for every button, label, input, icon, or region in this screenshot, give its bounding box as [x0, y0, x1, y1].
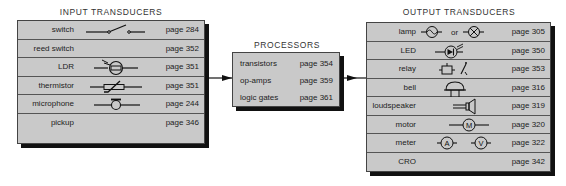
list-item: bell page 316	[367, 79, 550, 98]
list-item: CRO page 342	[367, 153, 550, 172]
item-label: pickup	[18, 114, 74, 132]
led-icon	[435, 42, 480, 60]
list-item: thermistor page 351	[18, 77, 204, 96]
page-reference: page 244	[166, 95, 199, 113]
list-item: op-amps page 359	[233, 72, 339, 89]
lamp-icon: or	[421, 23, 501, 41]
input-transducers-title: INPUT TRANSDUCERS	[17, 7, 205, 17]
page-reference: page 351	[166, 58, 199, 76]
page-reference: page 353	[512, 60, 545, 78]
processors-title: PROCESSORS	[232, 40, 342, 50]
thermistor-icon	[90, 77, 145, 95]
ldr-icon	[94, 58, 144, 76]
output-transducers-title: OUTPUT TRANSDUCERS	[366, 7, 552, 17]
item-label: transistors	[240, 55, 277, 72]
page-reference: page 354	[300, 55, 333, 72]
arrow-input-to-processors	[208, 74, 234, 82]
bell-icon	[443, 79, 473, 97]
motor-icon: M	[449, 116, 494, 134]
processors-box: transistors page 354 op-amps page 359 lo…	[232, 52, 340, 107]
page-reference: page 359	[300, 72, 333, 89]
page-reference: page 342	[512, 153, 545, 171]
page-reference: page 319	[512, 97, 545, 115]
item-label: lamp	[367, 23, 416, 41]
item-label: relay	[367, 60, 416, 78]
list-item: reed switch page 352	[18, 40, 204, 59]
item-label: microphone	[18, 95, 74, 113]
page-reference: page 351	[166, 77, 199, 95]
item-label: thermistor	[18, 77, 74, 95]
input-transducers-box: switch page 284 reed switch page 352 LDR…	[17, 20, 205, 144]
item-label: motor	[367, 116, 416, 134]
list-item: meter A V page 322	[367, 134, 550, 153]
arrow-processors-to-output	[344, 74, 368, 82]
list-item: transistors page 354	[233, 55, 339, 72]
item-label: meter	[367, 134, 416, 152]
item-label: loudspeaker	[367, 97, 416, 115]
list-item: switch page 284	[18, 21, 204, 40]
page-reference: page 316	[512, 79, 545, 97]
item-label: logic gates	[240, 89, 278, 106]
item-label: LDR	[18, 58, 74, 76]
list-item: LDR page 351	[18, 58, 204, 77]
list-item: logic gates page 361	[233, 89, 339, 106]
item-label: switch	[18, 21, 74, 39]
page-reference: page 350	[512, 42, 545, 60]
loudspeaker-icon	[453, 97, 483, 115]
page-reference: page 284	[166, 21, 199, 39]
list-item: microphone page 244	[18, 95, 204, 114]
item-label: CRO	[367, 153, 416, 171]
list-item: motor M page 320	[367, 116, 550, 135]
item-label: bell	[367, 79, 416, 97]
output-transducers-box: lamp or page 305 LED page 350 rela	[366, 22, 551, 172]
list-item: LED page 350	[367, 42, 550, 61]
page-reference: page 346	[166, 114, 199, 132]
page-reference: page 352	[166, 40, 199, 58]
page-reference: page 361	[300, 89, 333, 106]
item-label: reed switch	[18, 40, 74, 58]
ammeter-a-text: A	[444, 139, 449, 148]
list-item: lamp or page 305	[367, 23, 550, 42]
voltmeter-v-text: V	[478, 139, 483, 148]
page-reference: page 305	[512, 23, 545, 41]
page-reference: page 322	[512, 134, 545, 152]
switch-icon	[86, 21, 146, 39]
meter-icon: A V	[437, 134, 512, 152]
relay-icon	[439, 60, 479, 78]
lamp-or-text: or	[451, 28, 458, 37]
item-label: op-amps	[240, 72, 271, 89]
page-reference: page 320	[512, 116, 545, 134]
list-item: relay page 353	[367, 60, 550, 79]
list-item: loudspeaker page 319	[367, 97, 550, 116]
list-item: pickup page 346	[18, 114, 204, 133]
item-label: LED	[367, 42, 416, 60]
microphone-icon	[94, 95, 144, 113]
motor-m-text: M	[466, 121, 472, 130]
